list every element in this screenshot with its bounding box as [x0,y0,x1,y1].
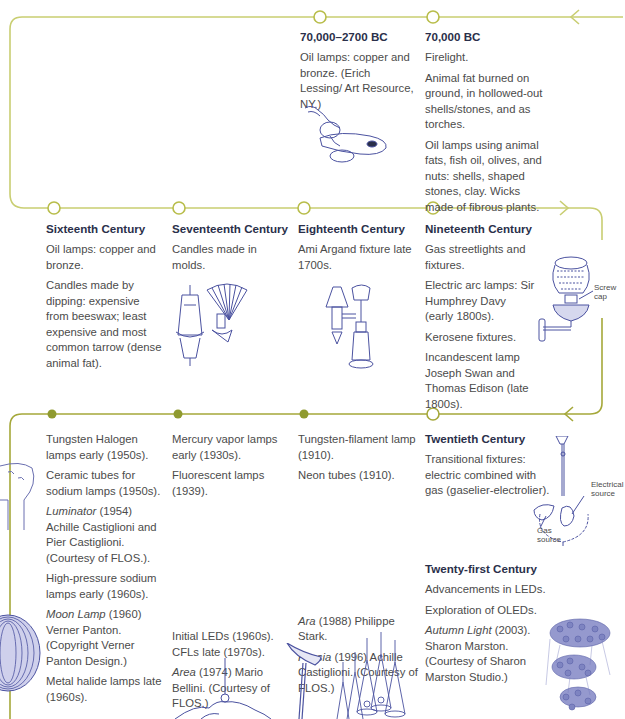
area-pendant-icon [165,658,275,719]
entry-title: 70,000 BC [425,30,550,44]
design-name: Luminator [46,505,96,517]
timeline-entry-twenty-first-century: Twenty-first Century Advancements in LED… [425,562,550,690]
gas-source-callout: Gas source [537,526,563,544]
timeline-entry-70000bc: 70,000 BC Firelight. Animal fat burned o… [425,30,550,220]
entry-text: Firelight. [425,50,550,66]
entry-text: Autumn Light (2003). Sharon Marston. (Co… [425,623,550,685]
entry-text: Candles made by dipping: expensive from … [46,278,164,371]
screw-cap-callout: Screw cap [594,283,624,301]
ara-lamp-icon [285,643,325,719]
moon-lamp-icon [0,612,42,694]
chandelier-and-sconce-icon [172,280,257,370]
entry-title: Sixteenth Century [46,222,164,236]
entry-title: Eighteenth Century [298,222,423,236]
entry-text: Tungsten-filament lamp (1910). [298,432,420,463]
autumn-light-icon [540,615,620,715]
design-name: Ara [298,615,316,627]
entry-title: 70,000–2700 BC [300,30,415,44]
entry-text: Fluorescent lamps (1939). [172,468,292,499]
entry-text: Initial LEDs (1960s). CFLs late (1970s). [172,629,292,660]
timeline-entry-twentieth-century-col1: Tungsten Halogen lamps early (1950s). Ce… [46,432,164,710]
entry-text: Advancements in LEDs. [425,582,550,598]
entry-text: Gas streetlights and fixtures. [425,242,535,273]
entry-text: Metal halide lamps late (1960s). [46,674,164,705]
entry-text: Moon Lamp (1960) Verner Panton. (Copyrig… [46,607,164,669]
kerosene-wall-lamp-icon [535,255,603,345]
entry-text: Ami Argand fixture late 1700s. [298,242,423,273]
design-name: Moon Lamp [46,608,106,620]
fucsia-pendant-icon [335,632,415,719]
entry-text: Exploration of OLEDs. [425,603,550,619]
entry-text: Incandescent lamp Joseph Swan and Thomas… [425,350,535,412]
entry-text: Animal fat burned on ground, in hollowed… [425,71,550,133]
entry-text: Electric arc lamps: Sir Humphrey Davy (e… [425,278,535,325]
entry-text: Tungsten Halogen lamps early (1950s). [46,432,164,463]
entry-text: Luminator (1954) Achille Castiglioni and… [46,504,164,566]
electrical-source-callout: Electrical source [591,480,625,498]
timeline-entry-eighteenth-century: Eighteenth Century Ami Argand fixture la… [298,222,423,278]
entry-title: Seventeenth Century [172,222,292,236]
timeline-entry-nineteenth-century: Nineteenth Century Gas streetlights and … [425,222,535,417]
luminator-lamp-icon [0,460,40,540]
timeline-entry-sixteenth-century: Sixteenth Century Oil lamps: copper and … [46,222,164,376]
design-name: Autumn Light [425,624,492,636]
entry-text: High-pressure sodium lamps early (1960s)… [46,571,164,602]
entry-text: Candles made in molds. [172,242,292,273]
oil-lamp-icon [300,100,395,170]
entry-title: Nineteenth Century [425,222,535,236]
entry-text: Neon tubes (1910). [298,468,420,484]
entry-text: Ceramic tubes for sodium lamps (1950s). [46,468,164,499]
entry-title: Twenty-first Century [425,562,550,576]
entry-text: Kerosene fixtures. [425,330,535,346]
entry-text: Oil lamps using animal fats, fish oil, o… [425,138,550,216]
entry-text: Mercury vapor lamps early (1930s). [172,432,292,463]
argand-lamp-icon [318,282,378,372]
timeline-entry-seventeenth-century: Seventeenth Century Candles made in mold… [172,222,292,278]
entry-text: Oil lamps: copper and bronze. [46,242,164,273]
